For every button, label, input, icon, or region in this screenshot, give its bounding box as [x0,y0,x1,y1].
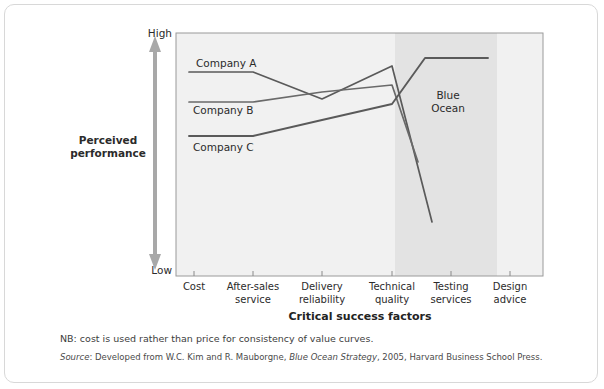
source-lead: Source [60,352,89,362]
annotation-line: Blue [412,89,484,102]
x-tick-label-delivery-reliability: Delivery reliability [286,281,358,306]
series-label-company-b: Company B [193,104,254,116]
y-axis-label: Perceived performance [62,134,154,160]
blue-ocean-band [395,33,497,276]
y-axis-low-label: Low [136,264,172,277]
strategy-canvas-chart [0,0,604,389]
annotation-line: Ocean [412,102,484,115]
source-book-title: Blue Ocean Strategy [289,352,377,362]
x-tick-line: reliability [286,294,358,307]
series-label-company-a: Company A [196,57,256,69]
x-axis-title: Critical success factors [180,310,540,323]
source-post: , 2005, Harvard Business School Press. [377,352,542,362]
x-tick-label-design-advice: Design advice [474,281,546,306]
x-tick-line: Design [474,281,546,294]
source-note: Source: Developed from W.C. Kim and R. M… [60,352,542,362]
nb-note: NB: cost is used rather than price for c… [60,333,373,345]
x-tick-line: advice [474,294,546,307]
x-tick-label-after-sales-service: After-sales service [217,281,289,306]
source-pre: : Developed from W.C. Kim and R. Mauborg… [89,352,289,362]
blue-ocean-annotation: Blue Ocean [412,89,484,115]
x-tick-line: Delivery [286,281,358,294]
series-label-company-c: Company C [193,141,254,153]
x-tick-line: service [217,294,289,307]
x-tick-line: After-sales [217,281,289,294]
y-axis-high-label: High [136,27,172,40]
